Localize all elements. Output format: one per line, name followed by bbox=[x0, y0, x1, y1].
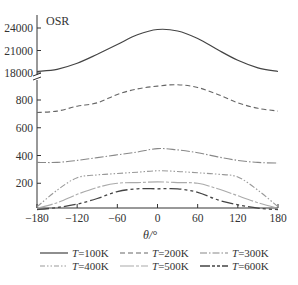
x-tick-label: 60 bbox=[192, 212, 204, 224]
y-tick-label: 24000 bbox=[4, 22, 33, 34]
x-tick-label: 0 bbox=[155, 212, 161, 224]
legend-label-600k: =600K bbox=[238, 260, 269, 272]
legend-item-300k: T=300K bbox=[200, 247, 280, 259]
x-tick-label: 120 bbox=[229, 212, 247, 224]
series-line-t100k bbox=[37, 29, 278, 71]
solid-line-icon bbox=[40, 250, 68, 256]
axes: −180−120−6006012018018000210002400020040… bbox=[4, 15, 287, 224]
series-line-t300k bbox=[37, 149, 278, 164]
legend-label-500k: =500K bbox=[158, 260, 189, 272]
series-group bbox=[37, 29, 278, 209]
y-axis-label: OSR bbox=[46, 14, 69, 28]
dashed-line-icon bbox=[120, 250, 148, 256]
legend-label-100k: =100K bbox=[78, 247, 109, 259]
legend-label-200k: =200K bbox=[158, 247, 189, 259]
y-tick-label: 200 bbox=[16, 177, 34, 189]
legend-label-300k: =300K bbox=[238, 247, 269, 259]
legend-row-1: T=100K T=200K T=300K bbox=[40, 246, 280, 259]
x-tick-label: −60 bbox=[108, 212, 126, 224]
legend-item-500k: T=500K bbox=[120, 260, 200, 272]
legend-label-400k: =400K bbox=[78, 260, 109, 272]
legend-item-200k: T=200K bbox=[120, 247, 200, 259]
legend-item-100k: T=100K bbox=[40, 247, 120, 259]
long-dash-short-line-icon bbox=[200, 263, 228, 269]
dash-dot-line-icon bbox=[200, 250, 228, 256]
osr-line-chart: −180−120−6006012018018000210002400020040… bbox=[0, 0, 298, 245]
y-tick-label: 21000 bbox=[4, 45, 33, 57]
x-axis-label: θ/° bbox=[143, 228, 157, 242]
legend: T=100K T=200K T=300K T=400K T=500K T=600… bbox=[40, 246, 280, 272]
y-tick-label: 800 bbox=[16, 94, 34, 106]
y-tick-label: 600 bbox=[16, 122, 34, 134]
axis-break-mark bbox=[33, 77, 41, 80]
long-dash-line-icon bbox=[120, 263, 148, 269]
legend-row-2: T=400K T=500K T=600K bbox=[40, 259, 280, 272]
legend-item-400k: T=400K bbox=[40, 260, 120, 272]
y-tick-label: 400 bbox=[16, 150, 34, 162]
x-tick-label: 180 bbox=[269, 212, 287, 224]
x-tick-label: −180 bbox=[25, 212, 49, 224]
series-line-t200k bbox=[37, 85, 278, 113]
legend-item-600k: T=600K bbox=[200, 260, 280, 272]
x-tick-label: −120 bbox=[65, 212, 89, 224]
dash-dot-dot-line-icon bbox=[40, 263, 68, 269]
y-tick-label: 18000 bbox=[4, 67, 33, 79]
